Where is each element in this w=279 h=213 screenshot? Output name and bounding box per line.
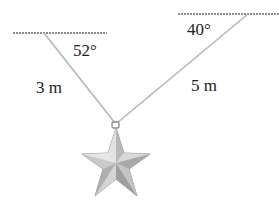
diagram-canvas: 52° 3 m 40° 5 m [0,0,279,213]
hanger-ring [112,122,119,128]
right-rope [117,14,248,123]
diagram-graphic [0,0,279,213]
left-angle-label: 52° [73,42,97,59]
right-length-label: 5 m [191,77,217,94]
left-length-label: 3 m [36,79,62,96]
star-icon [82,128,150,196]
right-angle-label: 40° [187,21,211,38]
